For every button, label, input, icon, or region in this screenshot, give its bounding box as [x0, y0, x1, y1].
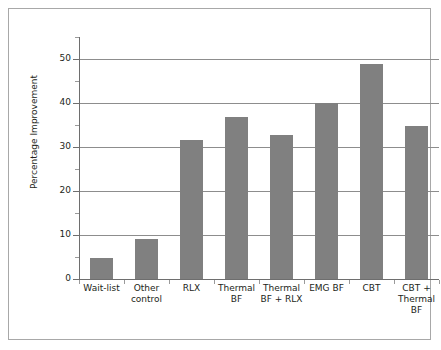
y-axis-tick-label: 50: [60, 54, 71, 63]
y-axis-tick-label: 30: [60, 142, 71, 151]
x-axis-category-label: CBT + Thermal BF: [388, 283, 441, 316]
y-axis-tick-label: 10: [60, 230, 71, 239]
bar: [180, 140, 203, 279]
y-axis-tick-label: 0: [65, 274, 71, 283]
bar-series: [79, 37, 439, 279]
bar: [90, 258, 113, 279]
y-axis-tick-label: 20: [60, 186, 71, 195]
figure-frame: Percentage Improvement 01020304050 Wait-…: [8, 8, 431, 340]
y-axis-tick-labels: 01020304050: [37, 9, 71, 350]
bar: [360, 64, 383, 279]
x-axis-line: [79, 279, 439, 280]
bar: [270, 135, 293, 279]
y-axis-tick-label: 40: [60, 98, 71, 107]
bar: [135, 239, 158, 279]
bar: [405, 126, 428, 279]
bar: [225, 117, 248, 279]
bar: [315, 103, 338, 279]
